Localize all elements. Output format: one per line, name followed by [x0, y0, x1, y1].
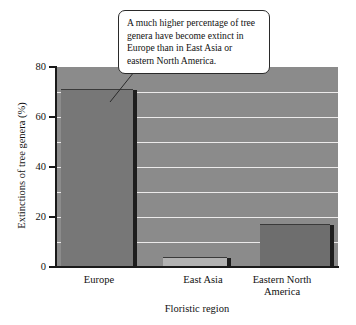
x-axis-line: [55, 266, 339, 268]
bar-chart-figure: 80 60 40 20 0 Extinctions of tree genera…: [0, 0, 356, 325]
y-tick-mark-20: [49, 216, 55, 218]
y-tick-mark-80: [49, 66, 55, 68]
bar-eastern-north-america[interactable]: [260, 225, 330, 268]
y-tick-mark-0: [49, 266, 55, 268]
bar-eastern-north-america-face: [260, 225, 330, 268]
y-tick-label-80: 80: [36, 62, 47, 72]
y-axis-title: Extinctions of tree genera (%): [16, 66, 27, 266]
plot-area: [56, 67, 338, 267]
bar-east-asia-top-edge: [163, 257, 227, 258]
y-tick-label-0: 0: [41, 262, 46, 272]
x-axis-title: Floristic region: [56, 303, 338, 314]
y-tick-label-40: 40: [36, 162, 47, 172]
bar-eastern-north-america-top-edge: [260, 224, 330, 225]
callout-box[interactable]: A much higher percentage of tree genera …: [118, 10, 270, 74]
y-tick-mark-40: [49, 166, 55, 168]
y-tick-label-60: 60: [36, 112, 47, 122]
bar-europe-face: [61, 90, 133, 268]
bar-eastern-north-america-side-shadow: [330, 225, 334, 268]
y-tick-label-20: 20: [36, 212, 47, 222]
y-tick-mark-60: [49, 116, 55, 118]
bar-europe-side-shadow: [133, 90, 137, 268]
x-tick-label-eastern-north-america-line2: America: [222, 286, 342, 298]
bar-europe-top-edge: [61, 89, 133, 90]
callout-text: A much higher percentage of tree genera …: [127, 17, 261, 67]
x-tick-label-eastern-north-america-line1: Eastern North: [222, 274, 342, 286]
y-axis-line: [55, 66, 57, 268]
x-tick-label-eastern-north-america: Eastern North America: [222, 274, 342, 298]
bar-europe[interactable]: [61, 90, 133, 268]
